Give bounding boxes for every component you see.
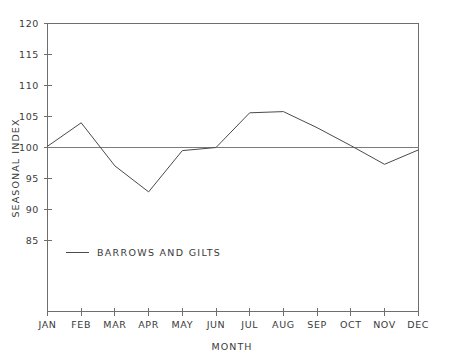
x-tick-label-apr: APR — [138, 319, 159, 330]
y-tick-label-120: 120 — [19, 18, 39, 29]
y-tick-label-110: 110 — [19, 80, 39, 91]
y-tick-label-85: 85 — [26, 235, 39, 246]
y-tick-label-90: 90 — [26, 204, 39, 215]
y-axis-tick-labels: 120 115 110 105 100 95 90 85 — [19, 18, 39, 246]
chart-legend: BARROWS AND GILTS — [66, 247, 221, 258]
y-tick-label-115: 115 — [19, 49, 39, 60]
x-tick-label-nov: NOV — [373, 319, 396, 330]
x-tick-label-jun: JUN — [206, 319, 226, 330]
chart-canvas: 120 115 110 105 100 95 90 85 JAN — [0, 0, 459, 360]
x-tick-label-sep: SEP — [307, 319, 327, 330]
series-line-barrows-and-gilts — [48, 112, 419, 192]
legend-label-barrows-and-gilts: BARROWS AND GILTS — [97, 247, 221, 258]
y-tick-label-100: 100 — [19, 142, 39, 153]
x-tick-label-aug: AUG — [272, 319, 295, 330]
plot-frame — [48, 24, 419, 312]
seasonal-index-line-chart: 120 115 110 105 100 95 90 85 JAN — [0, 0, 459, 360]
x-tick-label-mar: MAR — [103, 319, 126, 330]
x-tick-label-jan: JAN — [37, 319, 56, 330]
x-tick-label-may: MAY — [172, 319, 194, 330]
x-tick-label-feb: FEB — [71, 319, 91, 330]
y-tick-label-105: 105 — [19, 111, 39, 122]
x-tick-label-oct: OCT — [340, 319, 362, 330]
x-tick-label-jul: JUL — [240, 319, 258, 330]
x-axis-tick-labels: JAN FEB MAR APR MAY JUN JUL AUG SEP OCT … — [37, 319, 429, 330]
x-tick-label-dec: DEC — [407, 319, 429, 330]
y-tick-label-95: 95 — [26, 173, 39, 184]
y-axis-title: SEASONAL INDEX — [10, 118, 21, 217]
x-axis-title: MONTH — [211, 341, 252, 352]
